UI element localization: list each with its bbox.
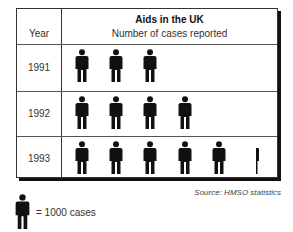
person-icon bbox=[143, 49, 157, 83]
year-label-1992: 1992 bbox=[17, 108, 61, 119]
person-icon bbox=[75, 141, 89, 175]
person-icon bbox=[178, 96, 192, 130]
chart-title: Aids in the UK bbox=[62, 14, 277, 25]
legend-text: = 1000 cases bbox=[36, 207, 96, 218]
year-label-1991: 1991 bbox=[17, 62, 61, 73]
pictogram-table: Year Aids in the UK Number of cases repo… bbox=[16, 8, 278, 178]
person-icon bbox=[75, 49, 89, 83]
person-icon bbox=[143, 141, 157, 175]
partial-person-icon bbox=[256, 141, 259, 175]
source-note: Source: HMSO statistics bbox=[194, 188, 281, 197]
person-icon bbox=[109, 141, 123, 175]
person-icon bbox=[178, 141, 192, 175]
person-icon bbox=[109, 49, 123, 83]
year-label-1993: 1993 bbox=[17, 153, 61, 164]
person-icon bbox=[15, 194, 30, 230]
row-divider bbox=[17, 91, 277, 92]
row-divider bbox=[17, 44, 277, 45]
chart-subtitle: Number of cases reported bbox=[62, 28, 277, 39]
year-header: Year bbox=[17, 28, 61, 39]
person-icon bbox=[75, 96, 89, 130]
person-icon bbox=[143, 96, 157, 130]
person-icon bbox=[109, 96, 123, 130]
row-divider bbox=[17, 136, 277, 137]
person-icon bbox=[212, 141, 226, 175]
